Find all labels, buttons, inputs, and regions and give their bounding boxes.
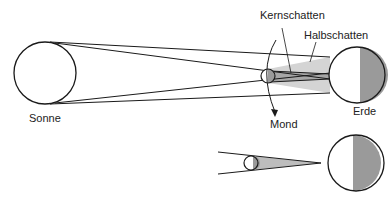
earth-label: Erde: [353, 105, 376, 117]
sun-label: Sonne: [29, 112, 61, 124]
earth-bottom: [328, 135, 384, 191]
sun-circle: [14, 42, 76, 104]
earth-top: [329, 47, 388, 103]
light-rays: [50, 42, 330, 104]
bottom-shadow-cone: [251, 156, 321, 170]
moon-label: Mond: [270, 118, 298, 130]
umbra-label: Kernschatten: [260, 9, 325, 21]
penumbra-leader: [310, 42, 316, 62]
penumbra-label: Halbschatten: [304, 29, 368, 41]
moon-top: [261, 69, 275, 83]
arrowhead-icon: [271, 109, 278, 117]
moon-bottom: [244, 156, 260, 170]
